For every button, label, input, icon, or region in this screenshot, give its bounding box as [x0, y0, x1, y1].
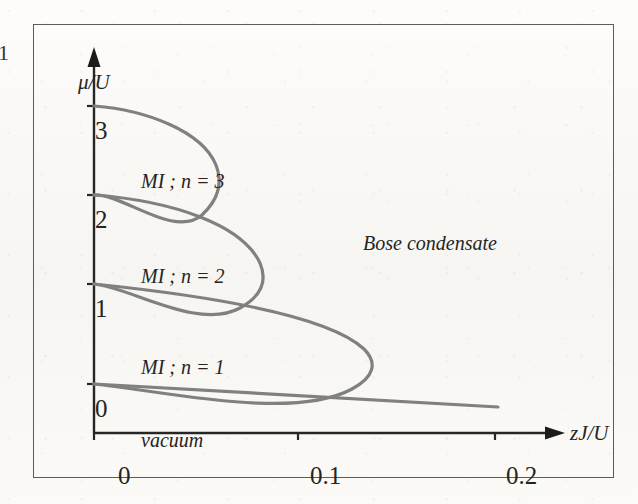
region-label-vacuum: vacuum — [141, 429, 203, 452]
y-tick-label-2: 2 — [95, 206, 108, 234]
y-tick-label-0: 0 — [95, 395, 108, 423]
x-axis-label: zJ/U — [570, 421, 609, 446]
mott-lobe-n2-curve — [94, 195, 263, 315]
x-axis-arrowhead — [545, 427, 565, 440]
figure-page: 1 — [0, 0, 638, 504]
region-label-mott-insulator-n3: MI ; n = 3 — [141, 170, 224, 193]
phase-diagram-plot — [34, 25, 613, 477]
y-tick-label-3: 3 — [95, 117, 108, 145]
y-tick-label-1: 1 — [95, 295, 108, 323]
y-axis-label: μ/U — [78, 70, 110, 95]
figure-frame: μ/U zJ/U 3 2 1 0 0 0.1 0.2 MI ; n = 3 MI… — [33, 24, 614, 478]
x-tick-label-0.1: 0.1 — [310, 462, 341, 490]
region-label-bose-condensate: Bose condensate — [363, 232, 497, 255]
y-axis-arrowhead — [88, 47, 101, 67]
margin-page-digit: 1 — [0, 40, 10, 66]
region-label-mott-insulator-n1: MI ; n = 1 — [141, 356, 224, 379]
x-tick-label-0: 0 — [118, 462, 131, 490]
region-label-mott-insulator-n2: MI ; n = 2 — [141, 265, 224, 288]
x-tick-label-0.2: 0.2 — [506, 462, 537, 490]
